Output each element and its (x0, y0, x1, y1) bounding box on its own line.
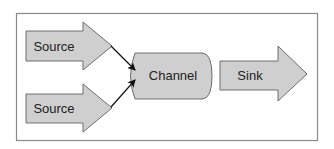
sink-label: Sink (237, 68, 263, 83)
source-label-top: Source (33, 39, 74, 54)
channel-node: Channel (131, 53, 213, 99)
channel-label: Channel (149, 68, 198, 83)
source-label-bottom: Source (33, 101, 74, 116)
diagram-canvas: Source Source Channel Sink (0, 0, 334, 149)
